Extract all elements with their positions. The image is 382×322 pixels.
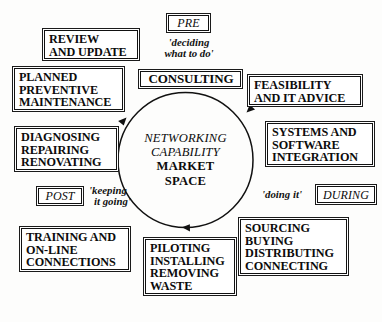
box-planned-preventive-maintenance-line1: PLANNED xyxy=(19,71,119,84)
box-piloting-installing-removing-waste: PILOTING INSTALLING REMOVING WASTE xyxy=(143,237,237,296)
centre-line-capability: CAPABILITY xyxy=(124,145,247,159)
phase-caption-post: 'keeping it going' xyxy=(89,185,131,208)
box-feasibility-and-it-advice: FEASIBILITY AND IT ADVICE xyxy=(247,74,363,107)
box-feasibility-and-it-advice-line2: AND IT ADVICE xyxy=(254,92,357,105)
market-space-cycle-diagram: NETWORKING CAPABILITY MARKET SPACE PRE '… xyxy=(0,0,382,322)
box-planned-preventive-maintenance: PLANNED PREVENTIVE MAINTENANCE xyxy=(12,66,125,112)
phase-caption-during: 'doing it' xyxy=(262,189,302,200)
phase-caption-pre-line2: what to do' xyxy=(163,48,215,59)
box-training-and-on-line-connections: TRAINING AND ON-LINE CONNECTIONS xyxy=(19,226,131,272)
centre-label: NETWORKING CAPABILITY MARKET SPACE xyxy=(124,131,247,188)
phase-tag-during-label: DURING xyxy=(323,189,369,201)
centre-line-market: MARKET xyxy=(124,159,247,173)
box-sourcing-buying-distributing-connecting: SOURCING BUYING DISTRIBUTING CONNECTING xyxy=(238,217,349,276)
phase-tag-post: POST xyxy=(36,186,84,206)
box-training-and-on-line-connections-line3: CONNECTIONS xyxy=(26,256,125,269)
box-diagnosing-repairing-renovating-line1: DIAGNOSING xyxy=(21,131,113,144)
box-consulting-line1: CONSULTING xyxy=(145,73,237,86)
box-diagnosing-repairing-renovating: DIAGNOSING REPAIRING RENOVATING xyxy=(14,126,119,172)
cycle-arrowhead-bottom xyxy=(182,223,191,231)
cycle-arrowhead-left xyxy=(118,115,129,126)
box-consulting: CONSULTING xyxy=(138,69,243,89)
box-systems-and-software-integration: SYSTEMS AND SOFTWARE INTEGRATION xyxy=(265,121,375,167)
box-piloting-installing-removing-waste-line3: REMOVING xyxy=(150,267,231,280)
box-sourcing-buying-distributing-connecting-line1: SOURCING xyxy=(245,222,343,235)
centre-line-space: SPACE xyxy=(124,174,247,188)
box-systems-and-software-integration-line1: SYSTEMS AND xyxy=(272,126,369,139)
phase-caption-post-line2: it going' xyxy=(89,196,131,207)
box-systems-and-software-integration-line3: INTEGRATION xyxy=(272,151,369,164)
phase-caption-pre: 'deciding what to do' xyxy=(163,37,215,60)
box-piloting-installing-removing-waste-line4: WASTE xyxy=(150,280,231,293)
box-sourcing-buying-distributing-connecting-line3: DISTRIBUTING xyxy=(245,247,343,260)
box-piloting-installing-removing-waste-line1: PILOTING xyxy=(150,242,231,255)
phase-tag-pre-label: PRE xyxy=(177,17,199,29)
phase-tag-pre: PRE xyxy=(166,13,211,33)
box-planned-preventive-maintenance-line3: MAINTENANCE xyxy=(19,96,119,109)
box-review-and-update-line1: REVIEW xyxy=(49,33,134,46)
box-feasibility-and-it-advice-line1: FEASIBILITY xyxy=(254,79,357,92)
centre-line-networking: NETWORKING xyxy=(124,131,247,145)
box-sourcing-buying-distributing-connecting-line4: CONNECTING xyxy=(245,260,343,273)
box-training-and-on-line-connections-line1: TRAINING AND xyxy=(26,231,125,244)
phase-tag-post-label: POST xyxy=(45,190,74,202)
phase-caption-during-line1: 'doing it' xyxy=(262,189,302,200)
box-diagnosing-repairing-renovating-line3: RENOVATING xyxy=(21,156,113,169)
box-review-and-update-line2: AND UPDATE xyxy=(49,46,134,59)
phase-tag-during: DURING xyxy=(315,184,377,205)
box-review-and-update: REVIEW AND UPDATE xyxy=(42,28,140,61)
